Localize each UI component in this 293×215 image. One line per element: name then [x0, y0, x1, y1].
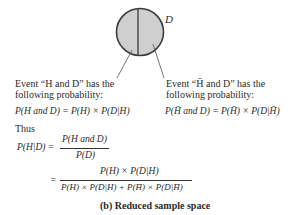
- left-event-formula: P(H and D) = P(H) × P(D|H): [15, 106, 130, 116]
- set-d-circle: [117, 9, 164, 56]
- thus-label: Thus: [15, 123, 35, 134]
- left-pointer-line: [117, 50, 132, 78]
- left-event-line1: Event “H and D” has the: [15, 78, 114, 89]
- left-event-line2: following probability:: [15, 89, 103, 100]
- fraction1-denominator: P(D): [76, 150, 95, 160]
- figure-caption: (b) Reduced sample space: [100, 200, 210, 211]
- bayes-lhs: P(H|D) =: [17, 142, 54, 152]
- set-d-label: D: [165, 13, 173, 25]
- right-event-formula: P(H̄ and D) = P(H̄) × P(D|H̄): [165, 106, 280, 116]
- right-event-line1: Event “H̄ and D” has the: [166, 78, 265, 89]
- equals-sign: =: [50, 175, 56, 185]
- right-pointer-line: [153, 44, 164, 78]
- fraction2-bar: [60, 180, 192, 181]
- fraction1-bar: [60, 148, 109, 149]
- fraction2-numerator: P(H) × P(D|H): [100, 166, 159, 176]
- fraction2-denominator: P(H) × P(D|H) + P(H̄) × P(D|H̄): [61, 182, 183, 192]
- fraction1-numerator: P(H and D): [62, 134, 107, 144]
- right-event-line2: following probability:: [166, 89, 254, 100]
